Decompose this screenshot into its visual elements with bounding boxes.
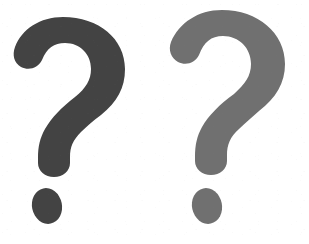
question-marks-artwork xyxy=(0,0,309,244)
image-canvas xyxy=(0,0,309,244)
